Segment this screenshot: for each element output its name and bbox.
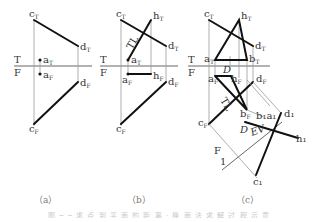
label-T-b: T — [100, 54, 107, 65]
line-cd-top-a — [34, 20, 78, 46]
label-cT-a: cT — [29, 8, 39, 20]
line-cd-aux — [256, 113, 281, 175]
panel-a: cT dT aT aF dF cF T F — [14, 8, 92, 135]
caption-b: （b） — [127, 195, 151, 205]
panel-c: cT hT dT aT bT D aF hF dF bF TL cF b₁a₁ … — [188, 8, 306, 187]
label-T-c: T — [188, 54, 195, 65]
caption-c: （c） — [236, 195, 259, 205]
point-a-top — [38, 58, 41, 61]
label-F-a: F — [14, 67, 21, 78]
label-aF-a: aF — [43, 69, 53, 81]
label-dF-b: dF — [168, 76, 179, 88]
label-D-aux-c: D — [239, 124, 248, 135]
label-T-a: T — [14, 54, 21, 65]
point-a-front — [38, 72, 41, 75]
label-cT-c: cT — [204, 8, 214, 20]
label-cF-b: cF — [116, 123, 126, 135]
label-dF-a: dF — [80, 77, 91, 89]
label-dF-c: dF — [256, 73, 267, 85]
label-dT-b: dT — [168, 40, 178, 52]
label-TL-b: TL — [124, 34, 140, 51]
label-1-aux-c: 1 — [220, 156, 226, 167]
label-F-c: F — [188, 67, 195, 78]
line-cd-front-a — [34, 82, 78, 124]
caption-a: （a） — [34, 195, 57, 205]
label-aF-c: aF — [208, 73, 218, 85]
label-dT-a: dT — [80, 41, 90, 53]
label-aT-a: aT — [43, 54, 53, 66]
label-TL-c: TL — [218, 96, 234, 113]
label-F-b: F — [100, 67, 107, 78]
label-b1a1-c: b₁a₁ — [256, 110, 276, 121]
label-bT-c: bT — [249, 53, 259, 65]
orthographic-projection-figure: cT dT aT aF dF cF T F cT hT dT aT aF hF … — [0, 0, 317, 222]
panel-b: cT hT dT aT aF hF dF cF TL T F — [100, 8, 179, 135]
label-D-top-c: D — [222, 64, 231, 75]
label-h1-c: h₁ — [296, 133, 306, 144]
label-dT-c: dT — [255, 40, 265, 52]
label-F-aux-c: F — [214, 145, 221, 156]
label-cF-c: cF — [198, 117, 208, 129]
label-aT-c: aT — [204, 53, 214, 65]
point-a-top-b — [127, 59, 130, 62]
line-cd-front-b — [121, 82, 166, 124]
figure-caption: 图 ─ ─ 求 点 到 平 面 的 距 离 · 换 面 法 求 解 过 程 示 … — [48, 210, 270, 218]
label-hF-c: hF — [231, 73, 242, 85]
label-d1-c: d₁ — [284, 108, 294, 119]
label-hT-c: hT — [241, 10, 251, 22]
label-hF-b: hF — [153, 70, 164, 82]
label-cF-a: cF — [29, 123, 39, 135]
label-aF-b: aF — [122, 74, 132, 86]
projector-d1 — [253, 82, 281, 113]
label-bF-c: bF — [240, 108, 251, 120]
label-cT-b: cT — [116, 8, 126, 20]
label-c1-c: c₁ — [253, 176, 263, 187]
label-hT-b: hT — [153, 10, 163, 22]
label-aT-b: aT — [131, 54, 141, 66]
